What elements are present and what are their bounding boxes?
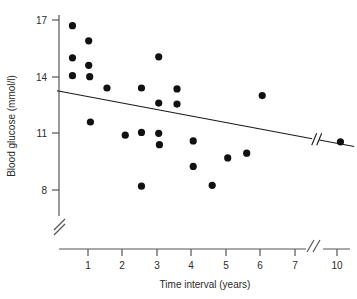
data-point [138, 129, 145, 136]
data-point [259, 92, 266, 99]
data-point [85, 62, 92, 69]
x-tick-label: 2 [119, 260, 125, 271]
data-point [155, 100, 162, 107]
x-tick-label: 5 [223, 260, 229, 271]
y-axis-title: Blood glucose (mmol/l) [6, 75, 17, 177]
x-tick-label: 10 [331, 260, 343, 271]
data-point [155, 53, 162, 60]
y-axis-ticks [52, 20, 59, 190]
data-point [86, 73, 93, 80]
data-point [85, 37, 92, 44]
y-tick-label: 17 [36, 15, 48, 26]
data-point [69, 72, 76, 79]
data-point [138, 183, 145, 190]
x-axis-break-icon [306, 240, 323, 252]
data-point [155, 130, 162, 137]
data-point [156, 141, 163, 148]
y-axis-break-icon [54, 216, 65, 235]
data-point [69, 22, 76, 29]
scatter-points [69, 22, 344, 190]
x-axis-title: Time interval (years) [160, 279, 251, 290]
x-axis-tick-labels: 1 2 3 4 5 6 7 10 [85, 260, 343, 271]
data-point [190, 163, 197, 170]
data-point [138, 84, 145, 91]
data-point [243, 150, 250, 157]
data-point [337, 138, 344, 145]
x-tick-label: 1 [85, 260, 91, 271]
x-tick-label: 7 [292, 260, 298, 271]
y-tick-label: 14 [36, 72, 48, 83]
data-point [122, 132, 129, 139]
x-tick-label: 6 [257, 260, 263, 271]
x-tick-label: 3 [154, 260, 160, 271]
chart-canvas: Blood glucose (mmol/l) 17 14 11 8 [0, 0, 357, 299]
trend-line [57, 91, 354, 147]
data-point [173, 85, 180, 92]
data-point [173, 100, 180, 107]
y-axis-tick-labels: 17 14 11 8 [36, 15, 48, 196]
data-point [190, 137, 197, 144]
y-tick-label: 8 [41, 185, 47, 196]
y-tick-label: 11 [37, 128, 48, 139]
x-tick-label: 4 [188, 260, 194, 271]
data-point [209, 182, 216, 189]
data-point [224, 154, 231, 161]
data-point [87, 118, 94, 125]
x-axis-ticks [88, 249, 337, 256]
scatter-chart: Blood glucose (mmol/l) 17 14 11 8 [0, 0, 357, 299]
data-point [103, 84, 110, 91]
data-point [69, 54, 76, 61]
